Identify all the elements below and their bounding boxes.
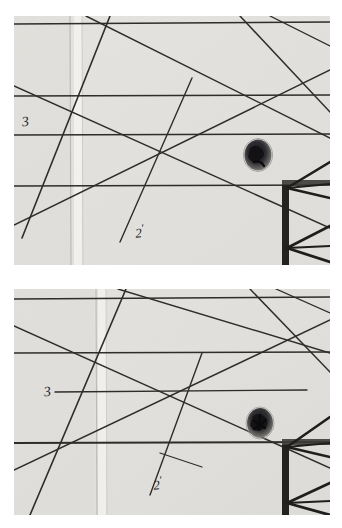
lower-plate: 3 2': [14, 289, 330, 515]
upper-plate: 3 2': [14, 16, 330, 265]
upper-plate-image: [14, 16, 330, 265]
figure-stack: 3 2': [0, 0, 342, 528]
lower-plate-image: [14, 289, 330, 515]
lower-plate-linework: [14, 289, 330, 515]
upper-plate-linework: [14, 16, 330, 265]
ink-blot: [246, 407, 274, 439]
ink-blot: [244, 139, 273, 172]
